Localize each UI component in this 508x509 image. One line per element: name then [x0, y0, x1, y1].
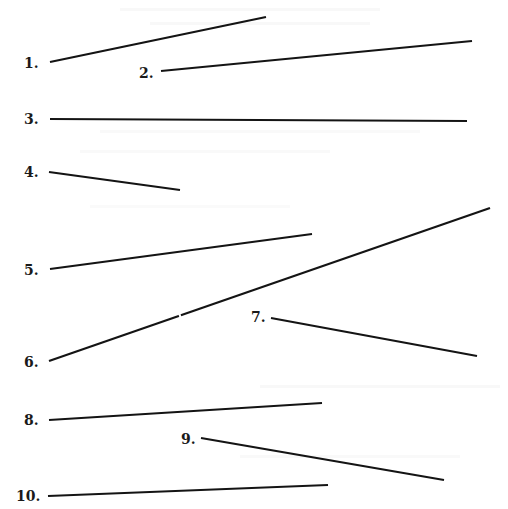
line-segment [50, 119, 467, 121]
line-segment [161, 41, 472, 71]
item-label: 5. [24, 262, 39, 278]
item-label: 9. [181, 431, 196, 447]
line-segments-diagram: 1. 2. 3. 4. 5. 6. 7. 8. 9. [0, 0, 508, 509]
line-segment [50, 234, 312, 269]
item-3: 3. [24, 111, 467, 127]
line-gap [179, 316, 181, 317]
item-1: 1. [24, 17, 266, 71]
item-10: 10. [16, 485, 328, 504]
item-2: 2. [139, 41, 472, 81]
line-segment [49, 172, 180, 190]
item-label: 8. [24, 412, 39, 428]
line-segment [271, 318, 477, 356]
item-label: 7. [251, 309, 266, 325]
item-5: 5. [24, 234, 312, 278]
item-7: 7. [251, 309, 477, 356]
line-segment [201, 438, 444, 480]
item-4: 4. [24, 164, 180, 190]
line-segment [49, 403, 322, 420]
item-label: 2. [139, 65, 154, 81]
line-segment [49, 208, 490, 361]
item-label: 3. [24, 111, 39, 127]
item-label: 10. [16, 488, 40, 504]
item-8: 8. [24, 403, 322, 428]
line-segment [48, 485, 328, 496]
item-label: 4. [24, 164, 39, 180]
item-label: 1. [24, 55, 39, 71]
item-label: 6. [24, 354, 39, 370]
